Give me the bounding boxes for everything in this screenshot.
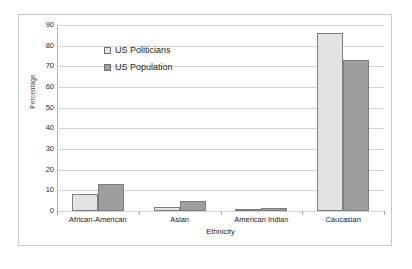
legend-label: US Population — [115, 62, 173, 72]
bar — [261, 208, 287, 211]
bar — [154, 207, 180, 211]
bar-group — [235, 25, 287, 211]
y-axis-tick-label: 50 — [28, 104, 54, 112]
bar — [343, 60, 369, 211]
y-axis-tick-label: 10 — [28, 186, 54, 194]
x-axis-tick — [221, 211, 222, 215]
x-axis-tick — [57, 211, 58, 215]
bar-group — [317, 25, 369, 211]
y-axis-tick-label: 60 — [28, 83, 54, 91]
legend-label: US Politicians — [115, 45, 171, 55]
y-axis-tick-label: 20 — [28, 166, 54, 174]
y-axis-tick-label: 90 — [28, 21, 54, 29]
legend-item-politicians: US Politicians — [104, 43, 173, 57]
legend-swatch-icon — [104, 47, 111, 54]
legend-swatch-icon — [104, 64, 111, 71]
bar — [72, 194, 98, 211]
bar — [317, 33, 343, 211]
x-axis-tick — [139, 211, 140, 215]
chart-legend: US Politicians US Population — [104, 43, 173, 77]
x-axis-title: Ethnicity — [57, 227, 384, 236]
bar — [180, 201, 206, 211]
legend-item-population: US Population — [104, 60, 173, 74]
y-axis-tick-label: 0 — [28, 207, 54, 215]
y-axis-tick-label: 80 — [28, 42, 54, 50]
y-axis-tick-label: 40 — [28, 124, 54, 132]
bar-chart: Percentage 9080706050403020100 Ethnicity… — [0, 0, 412, 269]
y-axis-tick-label: 70 — [28, 62, 54, 70]
x-axis-tick — [302, 211, 303, 215]
x-axis-category-label: Caucasian — [283, 215, 403, 224]
y-axis-tick-label: 30 — [28, 145, 54, 153]
bar — [98, 184, 124, 211]
bar — [235, 209, 261, 211]
y-axis-tick-labels: 9080706050403020100 — [26, 25, 54, 211]
x-axis-tick — [384, 211, 385, 215]
